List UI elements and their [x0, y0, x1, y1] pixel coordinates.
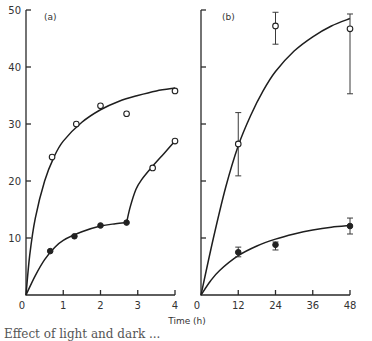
axes: [201, 10, 350, 295]
open-data-point: [49, 154, 55, 160]
x-tick-label: 12: [232, 300, 245, 311]
filled-data-point: [235, 249, 241, 255]
panel-a: 102030405001234: [8, 5, 178, 311]
x-tick-label: 4: [172, 300, 178, 311]
x-tick-label: 0: [194, 300, 200, 311]
open-data-point: [172, 88, 178, 94]
figure-caption: Effect of light and dark ...: [4, 327, 160, 341]
x-tick-label: 1: [60, 300, 66, 311]
filled-data-point: [47, 248, 53, 254]
open-data-point: [172, 138, 178, 144]
panel-b: 012243648: [194, 10, 357, 311]
fit-curve: [201, 225, 350, 295]
y-tick-label: 30: [8, 119, 21, 130]
open-data-point: [73, 121, 79, 127]
open-data-point: [150, 165, 156, 171]
filled-data-point: [98, 223, 104, 229]
filled-data-point: [273, 242, 279, 248]
fit-curve: [127, 141, 175, 223]
fit-curve: [26, 88, 175, 295]
filled-data-point: [347, 223, 353, 229]
fit-curve: [201, 19, 350, 295]
y-tick-label: 50: [8, 5, 21, 16]
panel-a-label: (a): [44, 12, 57, 22]
filled-data-point: [72, 233, 78, 239]
open-data-point: [235, 141, 241, 147]
open-data-point: [124, 111, 130, 117]
fit-curve: [26, 223, 127, 295]
x-tick-label: 0: [19, 300, 25, 311]
x-tick-label: 36: [306, 300, 319, 311]
x-axis-label: Time (h): [167, 316, 206, 326]
x-tick-label: 3: [135, 300, 141, 311]
panel-b-label: (b): [222, 12, 235, 22]
y-tick-label: 20: [8, 176, 21, 187]
open-data-point: [347, 26, 353, 32]
open-data-point: [98, 103, 104, 109]
x-tick-label: 2: [97, 300, 103, 311]
open-data-point: [273, 23, 279, 29]
y-tick-label: 10: [8, 233, 21, 244]
x-tick-label: 24: [269, 300, 282, 311]
x-tick-label: 48: [344, 300, 357, 311]
y-tick-label: 40: [8, 62, 21, 73]
